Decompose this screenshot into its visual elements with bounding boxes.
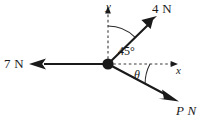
label-axis-x: x — [176, 65, 181, 76]
vector-force-7n-arrowhead-icon — [29, 58, 46, 69]
vector-force-pn — [108, 64, 179, 102]
label-axis-y: y — [106, 1, 111, 12]
angle-arc-theta — [145, 64, 150, 84]
origin-point — [102, 58, 113, 69]
angle-arc-45 — [108, 26, 135, 37]
angle-arc-45-path — [108, 26, 135, 37]
label-force-7n: 7 N — [4, 57, 24, 70]
y-axis — [105, 6, 111, 64]
force-vector-diagram: 4 N 7 N P N y x 45° θ — [0, 0, 197, 127]
vector-diagram-canvas — [0, 0, 197, 127]
label-angle-theta: θ — [134, 69, 140, 81]
label-force-4n: 4 N — [152, 2, 172, 15]
label-force-pn: P N — [176, 104, 197, 117]
label-angle-45: 45° — [118, 45, 135, 57]
vector-force-4n-arrowhead-icon — [141, 16, 157, 29]
vector-force-7n — [29, 58, 108, 69]
angle-arc-theta-path — [145, 64, 150, 84]
x-axis — [108, 61, 178, 67]
